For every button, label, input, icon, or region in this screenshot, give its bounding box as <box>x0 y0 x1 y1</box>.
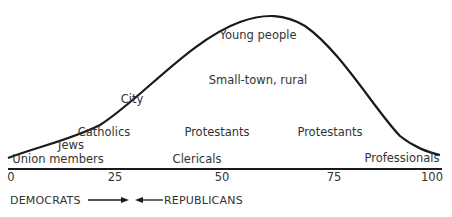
label-young-people: Young people <box>219 30 296 42</box>
political-distribution-diagram: Young people Small-town, rural City Cath… <box>0 0 452 217</box>
label-union-members: Union members <box>12 154 103 166</box>
tick-50: 50 <box>215 172 230 184</box>
tick-25: 25 <box>108 172 123 184</box>
label-jews: Jews <box>58 140 84 152</box>
label-protestants-mid: Protestants <box>184 127 249 139</box>
legend-republicans: REPUBLICANS <box>164 195 243 206</box>
label-small-town-rural: Small-town, rural <box>209 75 308 87</box>
republicans-arrowhead-icon <box>135 197 143 203</box>
label-clericals: Clericals <box>173 154 222 166</box>
tick-75: 75 <box>327 172 342 184</box>
label-catholics: Catholics <box>78 127 131 139</box>
label-professionals: Professionals <box>364 153 439 165</box>
label-protestants-right: Protestants <box>297 127 362 139</box>
tick-100: 100 <box>421 172 443 184</box>
democrats-arrowhead-icon <box>121 197 129 203</box>
label-city: City <box>121 94 144 106</box>
legend-democrats: DEMOCRATS <box>10 195 81 206</box>
tick-0: 0 <box>7 172 14 184</box>
